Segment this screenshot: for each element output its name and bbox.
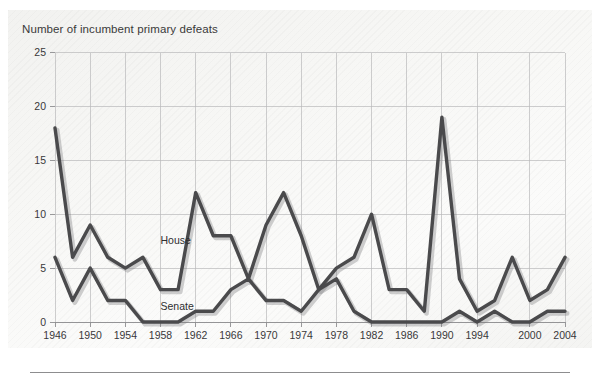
x-axis-tick-label: 1970 xyxy=(254,329,278,341)
x-axis-tick-label: 1994 xyxy=(465,329,489,341)
grid-layer xyxy=(55,53,565,323)
x-axis-tick-label: 2004 xyxy=(553,329,577,341)
x-axis-tick-label: 1986 xyxy=(395,329,419,341)
x-axis-tick-label: 1978 xyxy=(325,329,349,341)
x-axis-tick-label: 1950 xyxy=(78,329,102,341)
x-axis-tick-label: 1974 xyxy=(290,329,314,341)
x-axis-tick-label: 1946 xyxy=(43,329,67,341)
x-axis-tick-label: 1966 xyxy=(219,329,243,341)
x-axis-tick-label: 1962 xyxy=(184,329,208,341)
series-layer xyxy=(55,117,567,324)
footer-divider xyxy=(30,372,570,373)
axis-layer xyxy=(50,53,565,327)
x-axis-tick-label: 1990 xyxy=(430,329,454,341)
x-axis-tick-label: 2000 xyxy=(518,329,542,341)
series-annotation-layer: HouseSenate xyxy=(161,234,194,312)
series-label-house: House xyxy=(161,234,192,246)
line-chart: 0510152025194619501954195819621966197019… xyxy=(0,0,600,384)
y-axis-tick-label: 15 xyxy=(34,154,46,166)
y-axis-tick-label: 5 xyxy=(40,262,46,274)
x-axis-tick-label: 1982 xyxy=(360,329,384,341)
series-label-senate: Senate xyxy=(161,300,194,312)
y-axis-tick-label: 20 xyxy=(34,100,46,112)
x-axis-tick-label: 1954 xyxy=(114,329,138,341)
figure-container: Number of incumbent primary defeats 0510… xyxy=(0,0,600,384)
y-axis-tick-label: 25 xyxy=(34,46,46,58)
series-shadow-house xyxy=(57,119,567,313)
x-axis-tick-label: 1958 xyxy=(149,329,173,341)
y-axis-tick-label: 0 xyxy=(40,316,46,328)
y-axis-tick-label: 10 xyxy=(34,208,46,220)
